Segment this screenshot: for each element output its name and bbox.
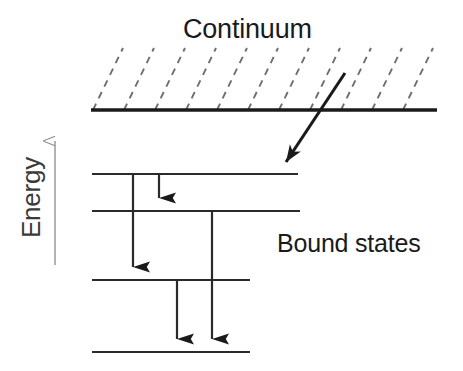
energy-axis-label: Energy (16, 150, 47, 246)
diagram-canvas (0, 0, 463, 371)
energy-level-diagram: Continuum Bound states Energy (0, 0, 463, 371)
decay-transitions (133, 174, 212, 339)
bound-states-label: Bound states (277, 229, 421, 258)
excitation-arrow (286, 73, 345, 162)
energy-levels (92, 174, 300, 352)
continuum-hatching (93, 48, 433, 110)
continuum-label: Continuum (183, 14, 312, 45)
